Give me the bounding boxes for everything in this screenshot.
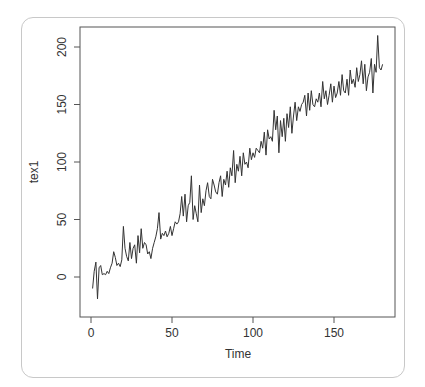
y-tick-label: 50 (55, 213, 69, 227)
x-tick-label: 100 (243, 326, 263, 340)
x-tick-label: 0 (88, 326, 95, 340)
data-line-tex1 (93, 36, 383, 299)
y-tick-label: 100 (55, 152, 69, 172)
x-axis-title: Time (225, 347, 252, 361)
y-tick-label: 0 (55, 273, 69, 280)
x-tick-label: 150 (324, 326, 344, 340)
x-axis: 050100150 (88, 317, 345, 340)
line-chart: 050100150 050100150200 Time tex1 (0, 0, 425, 387)
y-tick-label: 200 (55, 37, 69, 57)
y-tick-label: 150 (55, 94, 69, 114)
x-tick-label: 50 (165, 326, 179, 340)
plot-area-box (80, 27, 395, 317)
y-axis: 050100150200 (55, 37, 80, 281)
y-axis-title: tex1 (27, 160, 41, 183)
